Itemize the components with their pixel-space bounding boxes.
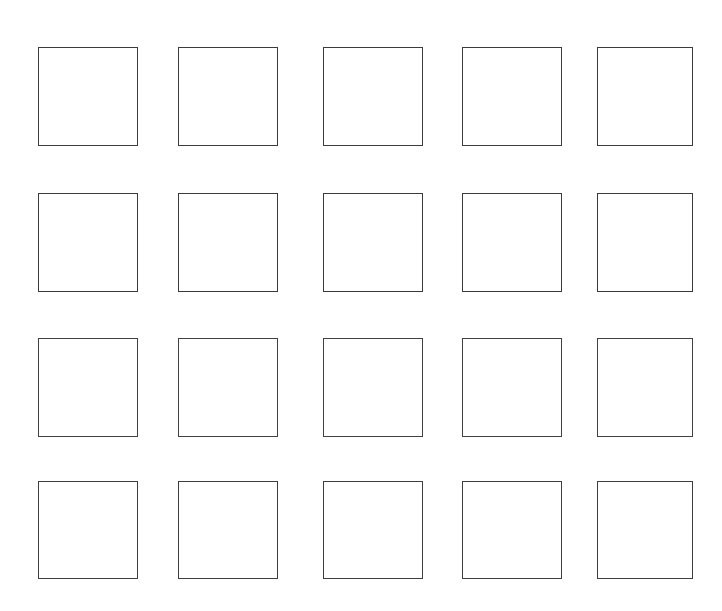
grid-square[interactable] <box>178 481 278 579</box>
grid-square[interactable] <box>597 481 693 579</box>
grid-square-content <box>324 482 422 578</box>
grid-square-content <box>39 194 137 291</box>
grid-square-content <box>179 339 277 436</box>
grid-square-content <box>598 48 692 145</box>
grid-square[interactable] <box>462 193 562 292</box>
grid-square[interactable] <box>323 193 423 292</box>
grid-square-content <box>463 482 561 578</box>
grid-square-content <box>179 482 277 578</box>
grid-square[interactable] <box>38 481 138 579</box>
grid-square[interactable] <box>462 47 562 146</box>
grid-square[interactable] <box>462 338 562 437</box>
worksheet-canvas <box>0 0 722 611</box>
grid-square-content <box>463 194 561 291</box>
grid-square-content <box>463 48 561 145</box>
grid-square-content <box>324 48 422 145</box>
grid-square[interactable] <box>178 338 278 437</box>
grid-square-content <box>39 48 137 145</box>
grid-square[interactable] <box>323 481 423 579</box>
grid-square[interactable] <box>323 47 423 146</box>
grid-square[interactable] <box>38 338 138 437</box>
grid-square-content <box>324 194 422 291</box>
grid-square[interactable] <box>462 481 562 579</box>
grid-square[interactable] <box>178 47 278 146</box>
grid-square-content <box>39 339 137 436</box>
grid-square[interactable] <box>597 338 693 437</box>
grid-square-content <box>598 194 692 291</box>
grid-square[interactable] <box>38 193 138 292</box>
grid-square-content <box>39 482 137 578</box>
grid-square-content <box>598 482 692 578</box>
grid-square[interactable] <box>178 193 278 292</box>
grid-square[interactable] <box>597 193 693 292</box>
grid-square-content <box>598 339 692 436</box>
grid-square-content <box>324 339 422 436</box>
grid-square-content <box>463 339 561 436</box>
grid-square[interactable] <box>597 47 693 146</box>
grid-square[interactable] <box>38 47 138 146</box>
grid-square-content <box>179 194 277 291</box>
grid-square[interactable] <box>323 338 423 437</box>
grid-square-content <box>179 48 277 145</box>
